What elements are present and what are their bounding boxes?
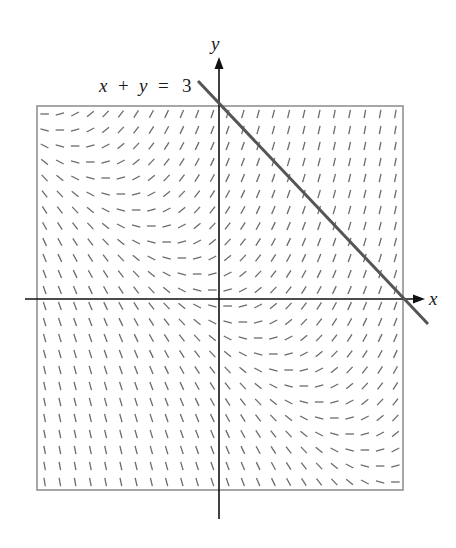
slope-segment	[104, 350, 107, 358]
slope-segment	[44, 350, 46, 358]
slope-segment	[241, 462, 244, 470]
slope-segment	[270, 287, 276, 293]
slope-segment	[164, 319, 169, 326]
slope-segment	[255, 287, 262, 292]
slope-segment	[150, 350, 154, 358]
slope-segment	[394, 190, 396, 198]
slope-segment	[332, 335, 337, 342]
slope-segment	[376, 449, 384, 451]
slope-segment	[333, 190, 335, 198]
slope-segment	[149, 334, 153, 342]
slope-segment	[349, 126, 351, 134]
slope-segment	[57, 175, 64, 180]
slope-segment	[241, 222, 246, 229]
slope-segment	[195, 366, 200, 373]
slope-segment	[378, 350, 382, 358]
slope-segment	[256, 190, 259, 198]
slope-segment	[43, 270, 46, 278]
slope-segment	[208, 305, 216, 307]
slope-segment	[103, 270, 108, 277]
slope-segment	[135, 446, 137, 454]
slope-segment	[226, 430, 230, 438]
slope-segment	[379, 190, 381, 198]
slope-segment	[211, 478, 214, 486]
slope-segment	[59, 430, 61, 438]
slope-segment	[87, 111, 94, 116]
slope-segment	[193, 240, 201, 244]
slope-segment	[134, 302, 139, 309]
slope-segment	[223, 289, 231, 291]
slope-segment	[133, 143, 139, 149]
slope-segment	[318, 126, 320, 134]
slope-segment	[240, 399, 245, 406]
slope-segment	[286, 447, 291, 454]
slope-segment	[210, 207, 215, 214]
slope-segment	[379, 142, 381, 150]
slope-segment	[58, 302, 61, 310]
slope-segment	[330, 433, 338, 435]
slope-segment	[73, 270, 77, 278]
slope-segment	[379, 206, 381, 214]
slope-segment	[361, 433, 369, 435]
slope-segment	[271, 271, 276, 278]
slope-segment	[361, 416, 369, 420]
slope-segment	[269, 337, 277, 339]
slope-segment	[349, 158, 351, 166]
slope-segment	[71, 129, 79, 131]
equation-label: x + y = 3	[98, 75, 192, 96]
slope-segment	[181, 462, 183, 470]
slope-segment	[102, 127, 109, 132]
slope-segment	[225, 367, 231, 373]
slope-segment	[118, 271, 123, 278]
slope-segment	[193, 289, 201, 291]
slope-segment	[43, 238, 47, 246]
slope-segment	[333, 158, 335, 166]
slope-segment	[196, 430, 199, 438]
slope-segment	[148, 192, 156, 196]
line-x-plus-y-eq-3	[198, 81, 428, 324]
slope-segment	[331, 351, 337, 357]
slope-segment	[256, 222, 260, 230]
slope-segment	[363, 334, 367, 342]
slope-segment	[59, 334, 61, 342]
slope-segment	[74, 446, 76, 454]
slope-segment	[44, 430, 46, 438]
slope-segment	[118, 239, 125, 244]
slope-segment	[363, 286, 366, 294]
slope-segment	[394, 350, 398, 358]
slope-segment	[362, 383, 368, 389]
slope-segment	[73, 254, 77, 262]
slope-segments	[40, 110, 399, 486]
slope-segment	[134, 350, 137, 358]
eq-equals: =	[158, 75, 169, 96]
slope-segment	[180, 158, 185, 165]
slope-segment	[119, 334, 122, 342]
slope-segment	[164, 142, 169, 149]
slope-segment	[196, 446, 199, 454]
slope-segment	[44, 446, 46, 454]
slope-segment	[164, 159, 169, 166]
slope-segment	[241, 158, 244, 166]
slope-segment	[379, 222, 381, 230]
slope-segment	[254, 304, 262, 308]
slope-segment	[134, 334, 138, 342]
slope-segment	[302, 286, 307, 293]
slope-segment	[193, 304, 201, 308]
slope-segment	[364, 190, 366, 198]
slope-segment	[226, 462, 229, 470]
slope-segment	[240, 271, 247, 276]
slope-segment	[364, 222, 366, 230]
slope-segment	[272, 222, 276, 230]
slope-segment	[118, 255, 124, 261]
slope-segment	[286, 270, 291, 277]
slope-segment	[379, 254, 381, 262]
slope-segment	[105, 414, 107, 422]
slope-segment	[43, 302, 46, 310]
slope-segment	[71, 161, 79, 163]
slope-segment	[361, 465, 369, 467]
slope-segment	[43, 286, 46, 294]
slope-segment	[59, 350, 61, 358]
slope-segment	[301, 447, 307, 453]
slope-segment	[272, 478, 276, 486]
slope-segment	[271, 462, 275, 470]
